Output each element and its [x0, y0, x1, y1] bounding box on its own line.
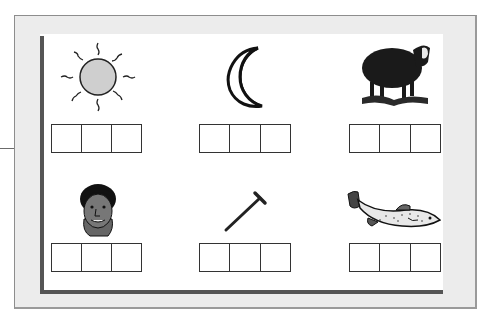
- letter-box[interactable]: [261, 244, 290, 271]
- letter-boxes-sun[interactable]: [51, 124, 142, 153]
- sun-icon: [58, 40, 138, 116]
- sheep-icon: [358, 40, 434, 112]
- nail-icon: [222, 190, 268, 234]
- panel-shadow-bottom: [40, 290, 443, 294]
- letter-box[interactable]: [82, 244, 112, 271]
- letter-box[interactable]: [200, 244, 230, 271]
- letter-boxes-moon[interactable]: [199, 124, 291, 153]
- letter-box[interactable]: [261, 125, 290, 152]
- letter-boxes-fish[interactable]: [349, 243, 441, 272]
- letter-box[interactable]: [82, 125, 112, 152]
- letter-box[interactable]: [350, 125, 380, 152]
- letter-box[interactable]: [411, 125, 440, 152]
- moon-icon: [224, 44, 268, 110]
- fish-icon: [346, 188, 442, 234]
- letter-box[interactable]: [380, 125, 410, 152]
- letter-box[interactable]: [380, 244, 410, 271]
- connector-line: [0, 148, 15, 149]
- letter-box[interactable]: [52, 244, 82, 271]
- letter-boxes-man[interactable]: [51, 243, 142, 272]
- letter-box[interactable]: [350, 244, 380, 271]
- letter-box[interactable]: [112, 244, 141, 271]
- man-face-icon: [78, 183, 118, 237]
- letter-boxes-nail[interactable]: [199, 243, 291, 272]
- letter-box[interactable]: [52, 125, 82, 152]
- letter-box[interactable]: [230, 244, 260, 271]
- letter-box[interactable]: [112, 125, 141, 152]
- letter-boxes-sheep[interactable]: [349, 124, 441, 153]
- panel-shadow-left: [40, 36, 44, 294]
- letter-box[interactable]: [411, 244, 440, 271]
- letter-box[interactable]: [230, 125, 260, 152]
- letter-box[interactable]: [200, 125, 230, 152]
